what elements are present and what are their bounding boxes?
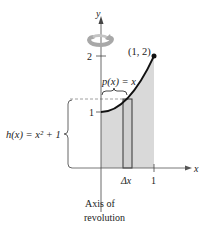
y-tick-label-1: 1 bbox=[89, 107, 94, 118]
axis-of-revolution-label-line1: Axis of bbox=[85, 198, 115, 209]
axis-of-revolution-label-line2: revolution bbox=[84, 212, 125, 223]
radius-brace bbox=[102, 88, 127, 95]
strip-width-label: Δx bbox=[120, 175, 132, 186]
radius-label: p(x) = x bbox=[101, 76, 136, 88]
y-axis-label: y bbox=[95, 8, 101, 19]
height-brace bbox=[64, 100, 72, 168]
representative-rectangle bbox=[123, 99, 132, 168]
point-label: (1, 2) bbox=[128, 46, 151, 58]
rotation-arrow-icon bbox=[89, 34, 112, 45]
y-tick-label-2: 2 bbox=[87, 51, 92, 62]
x-axis-arrow-icon bbox=[185, 166, 192, 171]
height-label: h(x) = x² + 1 bbox=[6, 129, 61, 141]
shell-method-diagram: y x 2 1 1 (1, 2) p(x) = x h(x) = x² + 1 … bbox=[0, 0, 203, 232]
x-axis-label: x bbox=[193, 163, 199, 174]
endpoint-dot bbox=[152, 54, 157, 59]
x-tick-label-1: 1 bbox=[151, 175, 156, 186]
